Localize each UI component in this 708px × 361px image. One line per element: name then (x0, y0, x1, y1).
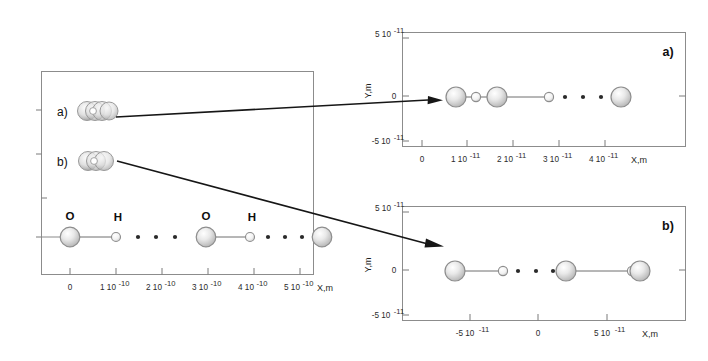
figure-container: 0 1 10 -10 2 10 -10 3 10 -10 4 10 -10 5 … (0, 0, 708, 361)
x-tick-label: 3 10 (543, 155, 559, 164)
x-tick-label: 0 (536, 329, 541, 338)
oxygen-atom (446, 87, 466, 107)
overview-main-chain: O H O H (41, 210, 332, 247)
cluster-b-spheres (79, 152, 114, 171)
y-tick-label: 0 (392, 92, 397, 101)
hydrogen-bond-dots (136, 235, 177, 239)
hydrogen-atom (498, 266, 507, 275)
atom-label-o: O (202, 210, 211, 222)
panel-b-y-axis-title: Y,m (363, 258, 373, 273)
x-tick-exponent: -11 (608, 151, 618, 160)
y-tick-label: -5 10 (372, 137, 391, 146)
x-tick-label: 4 10 (238, 283, 254, 292)
y-tick-label: 5 10 (375, 204, 391, 213)
x-tick-exponent: -10 (119, 279, 130, 288)
x-tick-exponent: -10 (165, 279, 176, 288)
y-tick-label: 0 (392, 266, 397, 275)
x-tick-label: 1 10 (100, 283, 116, 292)
detail-panel-b: b) 5 10 -11 0 -5 10 -11 Y,m (363, 200, 686, 340)
x-tick-exponent: -11 (516, 151, 526, 160)
overview-panel: 0 1 10 -10 2 10 -10 3 10 -10 4 10 -10 5 … (36, 72, 333, 294)
panel-a-y-tick-labels: 5 10 -11 0 -5 10 -11 (372, 26, 405, 147)
oxygen-atom (445, 261, 465, 281)
oxygen-atom (312, 227, 332, 247)
cluster-a-group: a) (57, 102, 118, 121)
hydrogen-atom (246, 233, 255, 242)
oxygen-atom (196, 227, 216, 247)
x-tick-label: 5 10 (594, 329, 610, 338)
oxygen-atom (487, 87, 507, 107)
cluster-a-spheres (78, 102, 119, 121)
x-tick-label: -5 10 (456, 329, 475, 338)
detail-panel-b-tag: b) (662, 219, 674, 233)
panel-b-y-tick-labels: 5 10 -11 0 -5 10 -11 (372, 200, 405, 321)
x-tick-label: 2 10 (497, 155, 513, 164)
hydrogen-atom (544, 92, 553, 101)
overview-x-tickmarks (70, 268, 300, 275)
x-tick-label: 1 10 (451, 155, 467, 164)
x-tick-label: 4 10 (589, 155, 605, 164)
x-tick-label: 2 10 (146, 283, 162, 292)
x-tick-exponent: -10 (257, 279, 268, 288)
detail-panel-a: a) 5 10 -11 0 -5 10 -11 Y,m (363, 26, 686, 166)
panel-b-chain (445, 261, 650, 281)
oxygen-atom (556, 261, 576, 281)
x-tick-label: 0 (68, 283, 73, 292)
cluster-b-group: b) (57, 152, 114, 171)
x-tick-exponent: -10 (211, 279, 222, 288)
y-tick-exponent: -11 (394, 200, 404, 209)
x-tick-exponent: -11 (615, 325, 625, 334)
hydrogen-bond-dots (563, 95, 603, 99)
panel-b-x-tickmarks (470, 314, 607, 321)
x-tick-exponent: -11 (562, 151, 572, 160)
x-tick-label: 0 (420, 155, 425, 164)
overview-x-axis-title: X,m (317, 283, 333, 293)
oxygen-atom (630, 261, 650, 281)
panel-b-x-axis-title: X,m (642, 329, 658, 339)
oxygen-atom (60, 227, 80, 247)
atom-label-h: H (114, 211, 122, 223)
panel-a-x-tickmarks (422, 140, 605, 147)
detail-panel-a-frame (403, 33, 686, 147)
panel-a-chain (446, 87, 631, 107)
hydrogen-atom (112, 233, 121, 242)
y-tick-label: -5 10 (372, 311, 391, 320)
y-tick-exponent: -11 (394, 133, 404, 142)
panel-a-y-axis-title: Y,m (363, 84, 373, 99)
hydrogen-bond-dots (516, 269, 555, 273)
x-tick-exponent: -11 (470, 151, 480, 160)
detail-panel-a-tag: a) (662, 45, 673, 59)
hydrogen-bond-dots (266, 235, 304, 239)
atom-label-h: H (248, 211, 256, 223)
x-tick-label: 5 10 (284, 283, 300, 292)
cluster-b-tag: b) (57, 155, 68, 169)
panel-a-x-axis-title: X,m (631, 155, 647, 165)
x-tick-exponent: -11 (479, 325, 489, 334)
x-tick-label: 3 10 (192, 283, 208, 292)
y-tick-exponent: -11 (394, 26, 404, 35)
atom-label-o: O (66, 210, 75, 222)
y-tick-exponent: -11 (394, 307, 404, 316)
hydrogen-atom (471, 92, 480, 101)
x-tick-exponent: -10 (303, 279, 314, 288)
panel-a-y-tickmarks (403, 38, 686, 141)
cluster-a-tag: a) (57, 105, 68, 119)
overview-panel-frame (42, 72, 314, 275)
figure-canvas: 0 1 10 -10 2 10 -10 3 10 -10 4 10 -10 5 … (0, 0, 708, 361)
overview-x-tick-labels: 0 1 10 -10 2 10 -10 3 10 -10 4 10 -10 5 … (68, 279, 314, 293)
oxygen-atom (611, 87, 631, 107)
y-tick-label: 5 10 (375, 30, 391, 39)
panel-b-x-tick-labels: -5 10 -11 0 5 10 -11 (456, 325, 626, 339)
panel-a-x-tick-labels: 0 1 10 -11 2 10 -11 3 10 -11 4 10 -11 (420, 151, 618, 165)
